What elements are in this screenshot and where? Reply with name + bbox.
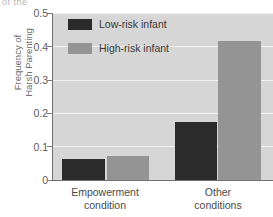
y-tick-label-0.1: 0.1: [26, 142, 48, 152]
y-axis-tick-labels: 0.5 0.4 0.3 0.2 0.1 0: [26, 0, 48, 217]
x-axis-line: [52, 180, 273, 181]
y-tick-label-0: 0: [26, 175, 48, 185]
y-tick-label-0.2: 0.2: [26, 108, 48, 118]
y-tick-label-0.4: 0.4: [26, 42, 48, 52]
bar-chart-figure: of the Frequency of Harsh Parenting 0.5 …: [0, 0, 273, 217]
legend-swatch-low-risk: [68, 19, 92, 30]
legend-label-high-risk: High-risk infant: [99, 43, 169, 54]
bar-high-risk-empowerment: [107, 156, 149, 180]
bar-low-risk-empowerment: [62, 159, 105, 180]
x-tick-label-other: Other conditions: [158, 186, 273, 211]
bar-high-risk-other: [218, 41, 261, 180]
plot-area: [53, 13, 273, 180]
x-tick-label-empowerment: Empowerment condition: [45, 186, 165, 211]
legend-swatch-high-risk: [68, 43, 92, 54]
legend-label-low-risk: Low-risk infant: [99, 19, 167, 30]
y-tick-label-0.5: 0.5: [26, 8, 48, 18]
y-tick-label-0.3: 0.3: [26, 75, 48, 85]
bar-low-risk-other: [175, 122, 217, 180]
gridline-0.5: [53, 13, 273, 14]
